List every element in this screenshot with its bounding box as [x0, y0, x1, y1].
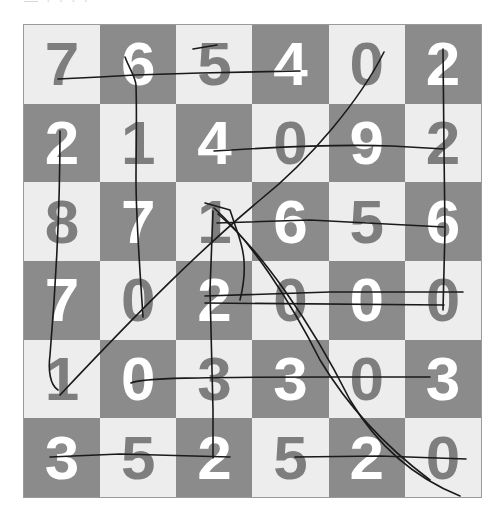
grid-cell-r2-c1[interactable]: 2 [24, 104, 100, 183]
grid-cell-r6-c3[interactable]: 2 [176, 418, 252, 497]
grid-cell-r4-c6[interactable]: 0 [405, 261, 481, 340]
grid-cell-r5-c1[interactable]: 1 [24, 340, 100, 419]
grid-cell-r3-c5[interactable]: 5 [329, 182, 405, 261]
grid-cell-r5-c6[interactable]: 3 [405, 340, 481, 419]
number-grid-board: 765402214092871656702000103303352520 [23, 24, 482, 498]
grid-cell-r4-c5[interactable]: 0 [329, 261, 405, 340]
grid-cell-r2-c6[interactable]: 2 [405, 104, 481, 183]
grid-cell-r4-c2[interactable]: 0 [100, 261, 176, 340]
grid-cell-r6-c1[interactable]: 3 [24, 418, 100, 497]
grid-cell-r1-c2[interactable]: 6 [100, 25, 176, 104]
grid-cell-r6-c2[interactable]: 5 [100, 418, 176, 497]
grid-cell-r3-c4[interactable]: 6 [252, 182, 328, 261]
grid-cell-r3-c1[interactable]: 8 [24, 182, 100, 261]
grid-cell-r4-c3[interactable]: 2 [176, 261, 252, 340]
header-partial-text: — · · · · [24, 0, 90, 8]
grid-cell-r5-c2[interactable]: 0 [100, 340, 176, 419]
grid-cell-r4-c1[interactable]: 7 [24, 261, 100, 340]
grid-cell-r6-c6[interactable]: 0 [405, 418, 481, 497]
grid-cell-r2-c3[interactable]: 4 [176, 104, 252, 183]
grid-cell-r1-c4[interactable]: 4 [252, 25, 328, 104]
grid-cell-r3-c6[interactable]: 6 [405, 182, 481, 261]
grid-cell-r5-c4[interactable]: 3 [252, 340, 328, 419]
grid-cell-r1-c3[interactable]: 5 [176, 25, 252, 104]
grid-cell-r1-c1[interactable]: 7 [24, 25, 100, 104]
grid-cell-r2-c5[interactable]: 9 [329, 104, 405, 183]
grid-cell-r5-c5[interactable]: 0 [329, 340, 405, 419]
grid-cell-r2-c2[interactable]: 1 [100, 104, 176, 183]
grid-cell-r1-c6[interactable]: 2 [405, 25, 481, 104]
grid-cell-r6-c5[interactable]: 2 [329, 418, 405, 497]
grid-cell-r4-c4[interactable]: 0 [252, 261, 328, 340]
grid-cell-r3-c2[interactable]: 7 [100, 182, 176, 261]
grid-cell-r5-c3[interactable]: 3 [176, 340, 252, 419]
grid-cell-r1-c5[interactable]: 0 [329, 25, 405, 104]
grid-cell-r6-c4[interactable]: 5 [252, 418, 328, 497]
grid-cell-r2-c4[interactable]: 0 [252, 104, 328, 183]
grid-cell-r3-c3[interactable]: 1 [176, 182, 252, 261]
